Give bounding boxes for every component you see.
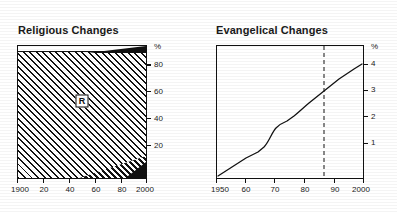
religious-xtick-1900 — [17, 179, 18, 183]
evangelical-xlabel-2000: 2000 — [352, 185, 370, 194]
religious-xlabel-80: 80 — [118, 185, 127, 194]
evangelical-xtick-2000 — [363, 179, 364, 183]
religious-series-marker-r: R — [76, 95, 89, 108]
religious-y-axis-unit: % — [154, 42, 161, 51]
religious-ytick-80 — [147, 64, 151, 65]
evangelical-xtick-1970 — [274, 179, 275, 183]
religious-ylabel-80: 80 — [154, 60, 163, 69]
evangelical-xtick-1990 — [334, 179, 335, 183]
religious-xtick-1920 — [43, 179, 44, 183]
evangelical-ylabel-1: 1 — [371, 138, 375, 147]
evangelical-ytick-3 — [364, 90, 368, 91]
evangelical-ytick-4 — [364, 64, 368, 65]
evangelical-xlabel-90: 90 — [331, 185, 340, 194]
religious-plot-area: R — [17, 45, 147, 179]
panel-religious-changes: Religious Changes R % 80 60 40 20 1900 2… — [0, 0, 197, 212]
evangelical-chart-title: Evangelical Changes — [216, 24, 328, 36]
evangelical-ytick-1 — [364, 143, 368, 144]
evangelical-line-svg — [217, 46, 364, 179]
religious-xtick-2000 — [146, 179, 147, 183]
religious-xlabel-60: 60 — [92, 185, 101, 194]
religious-xlabel-40: 40 — [66, 185, 75, 194]
evangelical-xtick-1980 — [304, 179, 305, 183]
religious-ylabel-40: 40 — [154, 114, 163, 123]
religious-chart-title: Religious Changes — [18, 24, 119, 36]
evangelical-xlabel-1950: 1950 — [211, 185, 229, 194]
religious-xlabel-20: 20 — [40, 185, 49, 194]
religious-xlabel-1900: 1900 — [11, 185, 29, 194]
evangelical-xtick-1950 — [216, 179, 217, 183]
evangelical-xtick-1960 — [245, 179, 246, 183]
evangelical-ylabel-2: 2 — [371, 112, 375, 121]
religious-ytick-40 — [147, 118, 151, 119]
evangelical-ylabel-3: 3 — [371, 85, 375, 94]
religious-xlabel-2000: 2000 — [136, 185, 154, 194]
evangelical-xlabel-60: 60 — [242, 185, 251, 194]
evangelical-ytick-2 — [364, 116, 368, 117]
religious-ylabel-60: 60 — [154, 87, 163, 96]
evangelical-y-axis-unit: % — [371, 42, 378, 51]
evangelical-trend-path — [218, 64, 362, 176]
religious-hatch-area — [18, 46, 146, 178]
religious-ylabel-20: 20 — [154, 141, 163, 150]
religious-ytick-20 — [147, 145, 151, 146]
panel-evangelical-changes: Evangelical Changes % 4 3 2 1 1950 60 70… — [197, 0, 397, 212]
evangelical-ylabel-4: 4 — [371, 59, 375, 68]
religious-xtick-1940 — [69, 179, 70, 183]
religious-xtick-1980 — [121, 179, 122, 183]
religious-xtick-1960 — [95, 179, 96, 183]
evangelical-xlabel-80: 80 — [301, 185, 310, 194]
evangelical-xlabel-70: 70 — [271, 185, 280, 194]
religious-ytick-60 — [147, 91, 151, 92]
evangelical-plot-area — [216, 45, 364, 179]
